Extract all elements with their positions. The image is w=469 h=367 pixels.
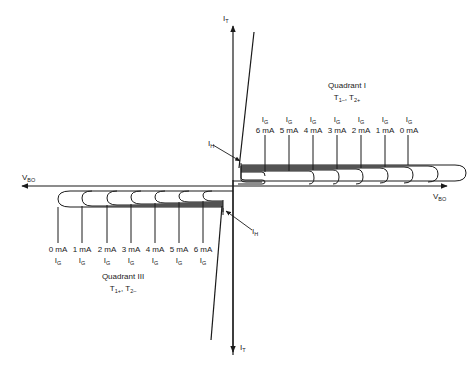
- svg-text:0 mA: 0 mA: [400, 126, 419, 135]
- svg-text:2 mA: 2 mA: [98, 245, 117, 254]
- holding-current-arrow-q1: [213, 145, 240, 161]
- quadrant-3-gate-labels: 0 mA IG 1 mA IG 2 mA IG 3 mA IG 4 mA IG …: [49, 245, 213, 266]
- svg-text:6 mA: 6 mA: [194, 245, 213, 254]
- holding-current-label-q1: IH: [208, 139, 214, 149]
- y-axis-top-label: IT: [223, 14, 229, 24]
- triac-characteristic-diagram: IT IT VBO VBO IH IH Quadrant I T1–, T2+ …: [0, 0, 469, 367]
- svg-text:IG: IG: [334, 115, 341, 125]
- svg-text:1 mA: 1 mA: [73, 245, 92, 254]
- svg-text:4 mA: 4 mA: [304, 126, 323, 135]
- svg-text:5 mA: 5 mA: [280, 126, 299, 135]
- svg-text:IG: IG: [152, 256, 159, 266]
- quadrant-1-gate-labels: IG 6 mA IG 5 mA IG 4 mA IG 3 mA IG 2 mA …: [256, 115, 419, 135]
- svg-text:IG: IG: [104, 256, 111, 266]
- on-state-line-q3: [211, 206, 222, 340]
- svg-text:IG: IG: [128, 256, 135, 266]
- svg-text:IG: IG: [286, 115, 293, 125]
- svg-text:IG: IG: [55, 256, 62, 266]
- quadrant-1-curves: [233, 135, 469, 184]
- quadrant-3-curves: [58, 191, 233, 243]
- svg-text:IG: IG: [358, 115, 365, 125]
- quadrant-1-terminals: T1–, T2+: [334, 93, 361, 103]
- svg-text:3 mA: 3 mA: [122, 245, 141, 254]
- svg-text:IG: IG: [79, 256, 86, 266]
- svg-text:3 mA: 3 mA: [328, 126, 347, 135]
- holding-current-label-q3: IH: [252, 227, 258, 237]
- svg-text:IG: IG: [262, 115, 269, 125]
- svg-text:IG: IG: [406, 115, 413, 125]
- svg-text:6 mA: 6 mA: [256, 126, 275, 135]
- svg-text:4 mA: 4 mA: [146, 245, 165, 254]
- x-axis-left-label: VBO: [22, 173, 36, 183]
- holding-current-arrow-q3: [226, 211, 252, 230]
- y-axis-bottom-label: IT: [240, 343, 246, 353]
- svg-text:5 mA: 5 mA: [170, 245, 189, 254]
- svg-text:IG: IG: [176, 256, 183, 266]
- quadrant-1-title: Quadrant I: [328, 81, 366, 90]
- quadrant-3-title: Quadrant III: [102, 272, 144, 281]
- svg-text:IG: IG: [310, 115, 317, 125]
- svg-text:2 mA: 2 mA: [352, 126, 371, 135]
- svg-text:0 mA: 0 mA: [49, 245, 68, 254]
- quadrant-3-terminals: T1+, T2–: [110, 284, 137, 294]
- svg-text:IG: IG: [200, 256, 207, 266]
- svg-text:IG: IG: [382, 115, 389, 125]
- on-state-line-q1: [239, 32, 254, 168]
- x-axis-right-label: VBO: [433, 192, 447, 202]
- svg-text:1 mA: 1 mA: [376, 126, 395, 135]
